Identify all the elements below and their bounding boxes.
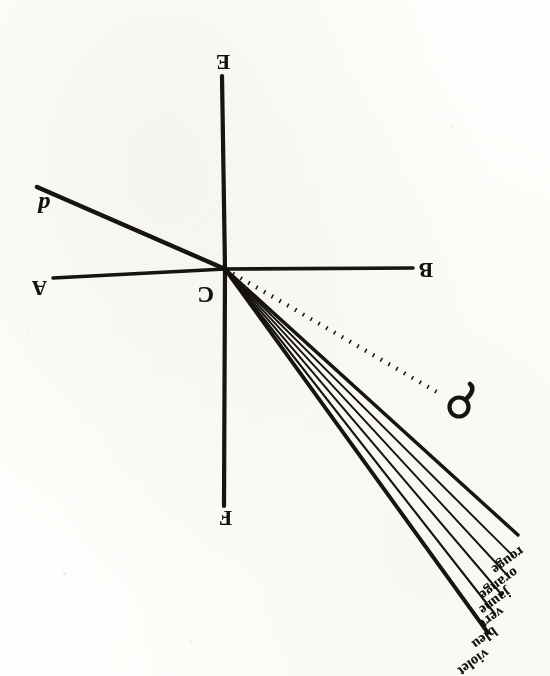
paper-speck	[507, 585, 510, 587]
ray-violet	[225, 269, 488, 633]
paper-speck	[190, 641, 192, 643]
point-d-glyph	[450, 384, 473, 417]
ray-jaune	[225, 269, 508, 576]
engraving-plate: B A F E C d violet bleu vert jaune orang…	[0, 0, 550, 676]
ray-vert	[225, 269, 502, 595]
axis-label-B: B	[418, 259, 433, 280]
figure-svg	[0, 0, 550, 676]
paper-speck	[28, 330, 30, 332]
axis-label-F: F	[219, 507, 232, 528]
ray-orange	[225, 269, 513, 556]
ray-refracted-d	[37, 187, 225, 269]
axis-vertical	[222, 76, 225, 506]
rotated-figure-group: B A F E C d violet bleu vert jaune orang…	[0, 0, 550, 676]
axis-label-A: A	[31, 277, 47, 298]
paper-speck	[452, 126, 454, 128]
axis-label-E: E	[215, 51, 230, 72]
origin-label-C: C	[197, 283, 214, 306]
point-label-d: d	[38, 193, 50, 217]
ray-bleu	[225, 269, 495, 614]
ray-rouge	[225, 269, 518, 535]
paper-speck	[63, 572, 66, 575]
